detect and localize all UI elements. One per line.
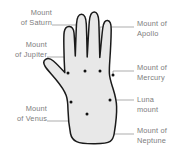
label-mount-of-mercury-line1: Mount of (137, 63, 167, 73)
label-luna-mount-line2: mount (137, 105, 158, 115)
label-mount-of-venus-line1: Mount (0, 104, 47, 114)
label-mount-of-jupiter-line2: of Jupiter (0, 50, 47, 60)
label-mount-of-neptune-line2: Neptune (137, 136, 167, 146)
label-luna-mount-line1: Luna (137, 95, 158, 105)
label-mount-of-jupiter: Mount of Jupiter (0, 40, 47, 59)
label-mount-of-saturn: Mount of Saturn (0, 8, 52, 27)
label-mount-of-venus-line2: of Venus (0, 114, 47, 124)
label-luna-mount: Luna mount (137, 95, 158, 114)
hand-shape (44, 12, 117, 144)
label-mount-of-neptune-line1: Mount of (137, 126, 167, 136)
label-mount-of-venus: Mount of Venus (0, 104, 47, 123)
label-mount-of-saturn-line1: Mount (0, 8, 52, 18)
mount-dot-saturn (84, 70, 87, 73)
label-mount-of-apollo: Mount of Apollo (137, 19, 167, 38)
hand-outline (44, 12, 117, 144)
mount-dot-neptune (86, 113, 89, 116)
label-mount-of-neptune: Mount of Neptune (137, 126, 167, 145)
label-mount-of-apollo-line1: Mount of (137, 19, 167, 29)
mount-dot-mercury (112, 74, 115, 77)
mount-dot-apollo (99, 70, 102, 73)
mount-dot-venus (70, 101, 73, 104)
label-mount-of-apollo-line2: Apollo (137, 29, 167, 39)
label-mount-of-saturn-line2: of Saturn (0, 18, 52, 28)
leader-line-mercury (113, 71, 134, 75)
label-mount-of-mercury: Mount of Mercury (137, 63, 167, 82)
label-mount-of-mercury-line2: Mercury (137, 73, 167, 83)
mount-dot-luna (109, 99, 112, 102)
palmistry-diagram: Mount of Saturn Mount of Jupiter Mount o… (0, 0, 176, 166)
label-mount-of-jupiter-line1: Mount (0, 40, 47, 50)
mount-dot-jupiter (67, 72, 70, 75)
